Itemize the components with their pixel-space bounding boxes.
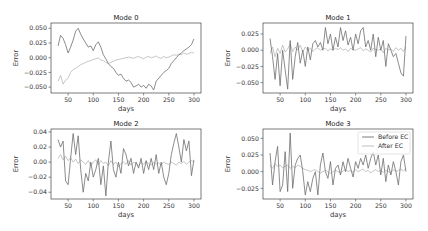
y-tick-label: −0.025 — [236, 185, 259, 192]
x-tick-label: 50 — [64, 202, 72, 209]
y-axis-label: Error — [224, 50, 232, 67]
y-tick-label: 0.050 — [29, 24, 47, 31]
x-tick-label: 200 — [138, 96, 150, 103]
x-tick-label: 50 — [276, 96, 284, 103]
y-axis-label: Error — [12, 50, 20, 67]
y-tick-label: −0.050 — [24, 83, 47, 90]
x-tick-label: 200 — [350, 96, 362, 103]
y-tick-label: 0.000 — [241, 46, 259, 53]
x-tick-label: 300 — [188, 96, 200, 103]
y-tick-label: 0.000 — [29, 54, 47, 61]
subplot-mode-3: Mode 3501001502002503000.0500.0250.000−0… — [224, 120, 413, 220]
x-tick-label: 300 — [400, 202, 412, 209]
x-tick-label: 300 — [400, 96, 412, 103]
x-axis-label: days — [330, 105, 347, 113]
x-tick-label: 250 — [163, 96, 175, 103]
x-tick-label: 200 — [350, 202, 362, 209]
x-tick-label: 150 — [113, 96, 125, 103]
y-tick-label: 0.02 — [33, 143, 47, 150]
subplot-title: Mode 2 — [113, 120, 138, 128]
x-tick-label: 300 — [188, 202, 200, 209]
y-tick-label: 0.050 — [241, 135, 259, 142]
y-tick-label: −0.02 — [28, 173, 47, 180]
x-tick-label: 250 — [163, 202, 175, 209]
subplot-title: Mode 3 — [325, 120, 350, 128]
y-tick-label: 0.025 — [241, 30, 259, 37]
subplot-title: Mode 0 — [113, 14, 138, 22]
x-tick-label: 150 — [325, 202, 337, 209]
x-tick-label: 100 — [87, 202, 99, 209]
y-tick-label: −0.025 — [24, 69, 47, 76]
subplot-title: Mode 1 — [325, 14, 350, 22]
y-tick-label: 0.00 — [33, 158, 47, 165]
legend-entry: Before EC — [378, 133, 408, 140]
legend: Before ECAfter EC — [358, 132, 410, 154]
y-tick-label: −0.050 — [236, 79, 259, 86]
y-tick-label: 0.025 — [241, 151, 259, 158]
y-tick-label: 0.025 — [29, 39, 47, 46]
x-tick-label: 200 — [138, 202, 150, 209]
x-tick-label: 250 — [375, 96, 387, 103]
y-axis-label: Error — [12, 156, 20, 173]
x-tick-label: 100 — [299, 96, 311, 103]
y-tick-label: 0.04 — [33, 128, 47, 135]
x-axis-label: days — [330, 211, 347, 219]
x-tick-label: 100 — [299, 202, 311, 209]
x-axis-label: days — [118, 211, 135, 219]
series-after-ec — [58, 52, 194, 84]
y-axis-label: Error — [224, 156, 232, 173]
x-axis-label: days — [118, 105, 135, 113]
axes-frame — [263, 23, 413, 93]
y-tick-label: −0.025 — [236, 63, 259, 70]
x-tick-label: 150 — [325, 96, 337, 103]
y-tick-label: 0.000 — [241, 168, 259, 175]
series-before-ec — [270, 28, 406, 90]
x-tick-label: 100 — [87, 96, 99, 103]
series-before-ec — [58, 28, 194, 90]
x-tick-label: 50 — [276, 202, 284, 209]
figure: Mode 0501001502002503000.0500.0250.000−0… — [0, 0, 428, 231]
x-tick-label: 250 — [375, 202, 387, 209]
y-tick-label: −0.04 — [28, 188, 47, 195]
subplot-mode-2: Mode 2501001502002503000.040.020.00−0.02… — [12, 120, 201, 220]
x-tick-label: 50 — [64, 96, 72, 103]
x-tick-label: 150 — [113, 202, 125, 209]
subplot-mode-1: Mode 1501001502002503000.0250.000−0.025−… — [224, 14, 413, 114]
subplot-mode-0: Mode 0501001502002503000.0500.0250.000−0… — [12, 14, 201, 114]
legend-entry: After EC — [378, 142, 403, 149]
